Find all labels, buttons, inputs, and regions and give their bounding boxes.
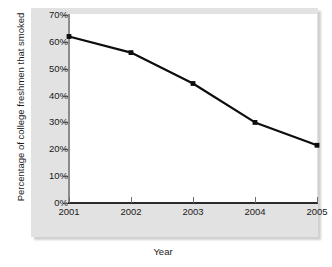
y-tick-label-text: 20% bbox=[38, 144, 68, 154]
x-tick-mark bbox=[317, 197, 318, 203]
x-tick-mark bbox=[193, 197, 194, 203]
y-tick-label-text: 60% bbox=[38, 37, 68, 47]
x-tick-label: 2001 bbox=[47, 206, 91, 217]
x-tick-label: 2004 bbox=[233, 206, 277, 217]
y-tick-label: 70% bbox=[28, 10, 68, 20]
x-tick-label: 2002 bbox=[109, 206, 153, 217]
y-tick-label: 20% bbox=[28, 144, 68, 154]
y-tick-label-text: 50% bbox=[38, 64, 68, 74]
x-tick-mark bbox=[69, 197, 70, 203]
plot-area-background bbox=[69, 14, 317, 204]
y-tick-label: 30% bbox=[28, 117, 68, 127]
y-tick-label: 60% bbox=[28, 37, 68, 47]
y-tick-label: 40% bbox=[28, 91, 68, 101]
x-tick-mark bbox=[131, 197, 132, 203]
y-tick-label-text: 40% bbox=[38, 91, 68, 101]
y-tick-label-text: 30% bbox=[38, 117, 68, 127]
y-tick-label: 10% bbox=[28, 171, 68, 181]
y-tick-label-text: 70% bbox=[38, 10, 68, 20]
x-tick-mark bbox=[255, 197, 256, 203]
x-tick-label: 2003 bbox=[171, 206, 215, 217]
x-tick-label: 2005 bbox=[295, 206, 332, 217]
y-axis-line bbox=[68, 14, 70, 204]
y-tick-label: 50% bbox=[28, 64, 68, 74]
y-tick-label-text: 10% bbox=[38, 171, 68, 181]
x-axis-title: Year bbox=[0, 246, 326, 257]
y-axis-title: Percentage of college freshmen that smok… bbox=[14, 2, 28, 212]
